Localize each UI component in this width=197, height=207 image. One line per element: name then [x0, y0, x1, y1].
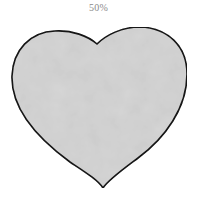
- heart-outline: [12, 27, 187, 188]
- heart-shape: [0, 0, 197, 207]
